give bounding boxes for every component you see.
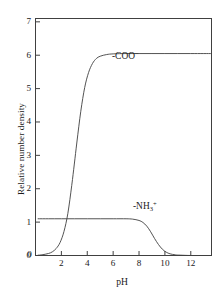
x-axis-ticks: [61, 251, 190, 256]
carboxylate-curve-label: -COO−: [112, 50, 139, 61]
y-axis-tick-label: 6: [17, 51, 31, 60]
y-axis-tick-label: 3: [17, 151, 31, 160]
annotation-superscript: −: [135, 50, 139, 57]
ammonium-curve: [38, 219, 211, 256]
y-axis-tick-label: 4: [17, 117, 31, 126]
x-axis-tick-labels: 024681012: [0, 259, 222, 273]
x-axis-tick-label: 12: [181, 259, 201, 268]
x-axis-title: pH: [33, 276, 211, 287]
carboxylate-curve: [38, 54, 211, 256]
annotation-superscript: +: [153, 200, 157, 207]
y-axis-tick-label: 2: [17, 184, 31, 193]
x-axis-tick-label: 8: [129, 259, 149, 268]
x-axis-tick-label: 6: [103, 259, 123, 268]
ammonium-curve-label: -NH3+: [133, 200, 157, 212]
chart-figure: Relative number density 01234567 0246810…: [0, 0, 222, 298]
x-axis-tick-label: 10: [155, 259, 175, 268]
y-axis-tick-label: 7: [17, 17, 31, 26]
y-axis-tick-label: 1: [17, 218, 31, 227]
y-axis-ticks: [36, 22, 41, 256]
x-axis-tick-label: 2: [51, 259, 71, 268]
x-axis-tick-label: 4: [77, 259, 97, 268]
y-axis-tick-label: 5: [17, 84, 31, 93]
x-axis-tick-label: 0: [20, 250, 40, 259]
